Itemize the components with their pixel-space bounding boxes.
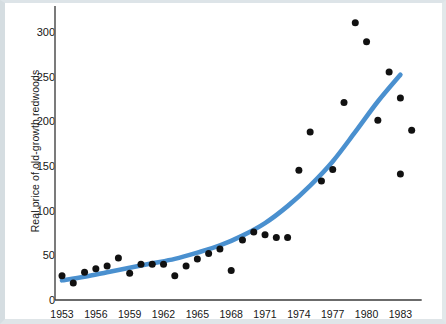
data-point <box>171 272 178 279</box>
data-point <box>307 128 314 135</box>
data-point <box>352 19 359 26</box>
x-axis-tick-label: 1983 <box>380 308 420 320</box>
data-point <box>284 234 291 241</box>
data-point <box>386 69 393 76</box>
data-point <box>363 38 370 45</box>
data-point <box>205 250 212 257</box>
data-point <box>374 117 381 124</box>
data-point <box>216 246 223 253</box>
data-point <box>92 265 99 272</box>
data-point <box>408 127 415 134</box>
data-point <box>250 229 257 236</box>
scatter-plot-canvas <box>5 3 446 324</box>
data-point <box>318 178 325 185</box>
data-point <box>329 166 336 173</box>
chart-figure: Real price of old-growth redwoods 050100… <box>0 0 446 324</box>
data-point <box>397 170 404 177</box>
data-point <box>104 263 111 270</box>
data-point <box>397 94 404 101</box>
data-point <box>115 254 122 261</box>
data-point <box>341 99 348 106</box>
data-point <box>149 261 156 268</box>
data-point <box>183 263 190 270</box>
data-point <box>160 261 167 268</box>
data-point <box>137 261 144 268</box>
data-point <box>239 237 246 244</box>
data-point <box>228 267 235 274</box>
trend-curve <box>62 75 400 281</box>
data-point <box>194 255 201 262</box>
data-point <box>81 269 88 276</box>
data-point <box>273 234 280 241</box>
data-point <box>59 272 66 279</box>
data-point <box>126 270 133 277</box>
data-point <box>70 280 77 287</box>
data-point <box>295 167 302 174</box>
data-point <box>262 231 269 238</box>
